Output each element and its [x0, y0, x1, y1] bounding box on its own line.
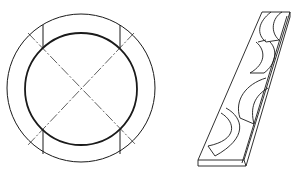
arc-segment-4: [208, 108, 240, 156]
strip-side-inner-edge: [242, 16, 287, 163]
strip-with-arc-cuts: [198, 12, 290, 166]
arc-segment-1: [260, 12, 282, 42]
arc-segment-3: [238, 78, 268, 124]
strip-top-face: [198, 12, 290, 160]
strip-front-face: [198, 160, 246, 166]
ring-top-view: [7, 14, 155, 162]
technical-drawing: [0, 0, 295, 174]
